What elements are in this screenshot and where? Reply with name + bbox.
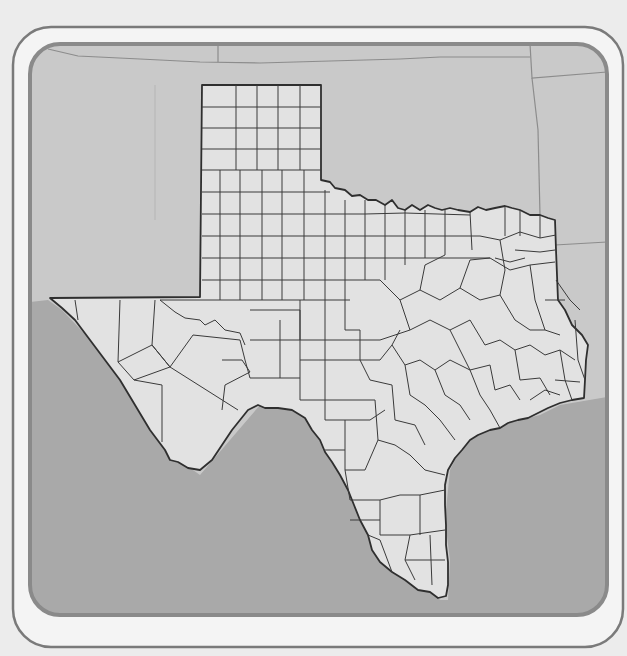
map-figure [0, 0, 627, 656]
